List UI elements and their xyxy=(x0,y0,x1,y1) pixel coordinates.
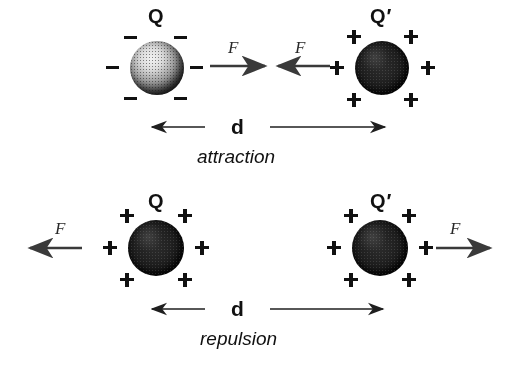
distance-label-d: d xyxy=(226,116,249,137)
caption-attraction: attraction xyxy=(197,147,275,166)
caption-repulsion: repulsion xyxy=(200,329,277,348)
coulomb-force-figure: Q Q′ F F xyxy=(0,0,518,371)
distance-label-d: d xyxy=(226,298,249,319)
panel-attraction: Q Q′ F F xyxy=(0,0,518,185)
panel-repulsion: Q Q′ F F xyxy=(0,185,518,371)
